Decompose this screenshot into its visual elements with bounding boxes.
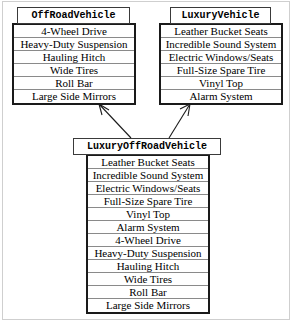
attribute-row: Hauling Hitch bbox=[88, 260, 208, 273]
attribute-row: Alarm System bbox=[161, 90, 281, 103]
attribute-row: Vinyl Top bbox=[161, 77, 281, 90]
attribute-row: Vinyl Top bbox=[88, 208, 208, 221]
attribute-row: Roll Bar bbox=[14, 77, 134, 90]
attribute-row: Full-Size Spare Tire bbox=[88, 195, 208, 208]
class-body-off-road-vehicle: 4-Wheel Drive Heavy-Duty Suspension Haul… bbox=[12, 23, 136, 105]
class-title-luxury-vehicle: LuxuryVehicle bbox=[170, 7, 271, 24]
class-body-luxury-off-road-vehicle: Leather Bucket Seats Incredible Sound Sy… bbox=[86, 154, 210, 314]
attribute-row: Incredible Sound System bbox=[161, 38, 281, 51]
attribute-row: Hauling Hitch bbox=[14, 51, 134, 64]
class-title-luxury-off-road-vehicle: LuxuryOffRoadVehicle bbox=[73, 138, 221, 155]
attribute-row: 4-Wheel Drive bbox=[14, 25, 134, 38]
attribute-row: Large Side Mirrors bbox=[14, 90, 134, 103]
attribute-row: Electric Windows/Seats bbox=[161, 51, 281, 64]
class-title-off-road-vehicle: OffRoadVehicle bbox=[17, 7, 130, 24]
attribute-row: Electric Windows/Seats bbox=[88, 182, 208, 195]
uml-class-diagram: OffRoadVehicle 4-Wheel Drive Heavy-Duty … bbox=[0, 0, 294, 325]
attribute-row: Alarm System bbox=[88, 221, 208, 234]
attribute-row: Leather Bucket Seats bbox=[88, 156, 208, 169]
attribute-row: Full-Size Spare Tire bbox=[161, 64, 281, 77]
attribute-row: 4-Wheel Drive bbox=[88, 234, 208, 247]
attribute-row: Leather Bucket Seats bbox=[161, 25, 281, 38]
attribute-row: Wide Tires bbox=[88, 273, 208, 286]
attribute-row: Wide Tires bbox=[14, 64, 134, 77]
attribute-row: Heavy-Duty Suspension bbox=[88, 247, 208, 260]
attribute-row: Heavy-Duty Suspension bbox=[14, 38, 134, 51]
class-body-luxury-vehicle: Leather Bucket Seats Incredible Sound Sy… bbox=[159, 23, 283, 105]
attribute-row: Large Side Mirrors bbox=[88, 299, 208, 312]
attribute-row: Roll Bar bbox=[88, 286, 208, 299]
inheritance-arrow-off-road bbox=[99, 104, 131, 138]
inheritance-arrow-luxury bbox=[169, 104, 190, 138]
attribute-row: Incredible Sound System bbox=[88, 169, 208, 182]
